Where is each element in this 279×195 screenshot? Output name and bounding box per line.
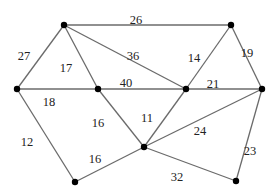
node-H [72, 179, 78, 185]
edge-D-G [98, 89, 144, 147]
node-F [259, 86, 265, 92]
edge-weight-D-E: 40 [120, 76, 133, 90]
edge-H-G [75, 147, 144, 182]
edge-weight-E-G: 11 [141, 111, 153, 125]
edge-weight-B-E: 14 [188, 51, 201, 65]
edge-weight-G-I: 32 [171, 170, 184, 184]
edge-weight-A-C: 27 [18, 49, 31, 63]
edge-weight-F-I: 23 [244, 144, 257, 158]
edge-F-I [236, 89, 262, 181]
node-C [14, 86, 20, 92]
edge-weight-H-G: 16 [89, 152, 102, 166]
node-A [61, 22, 67, 28]
edge-weight-G-F: 24 [194, 124, 207, 138]
edge-weight-C-H: 12 [21, 135, 34, 149]
node-I [233, 178, 239, 184]
edge-G-F [144, 89, 262, 147]
edge-weight-A-B: 26 [130, 13, 143, 27]
edge-weight-B-F: 19 [241, 46, 254, 60]
node-G [141, 144, 147, 150]
edge-weight-D-G: 16 [92, 116, 105, 130]
node-E [183, 86, 189, 92]
weighted-graph: 26271736184014192112161124163223 [0, 0, 279, 195]
edge-weight-A-D: 17 [60, 61, 73, 75]
node-B [228, 22, 234, 28]
edge-G-I [144, 147, 236, 181]
node-D [95, 86, 101, 92]
edge-weight-C-D: 18 [43, 95, 56, 109]
edge-weight-E-F: 21 [207, 77, 220, 91]
edge-weight-A-E: 36 [127, 49, 140, 63]
